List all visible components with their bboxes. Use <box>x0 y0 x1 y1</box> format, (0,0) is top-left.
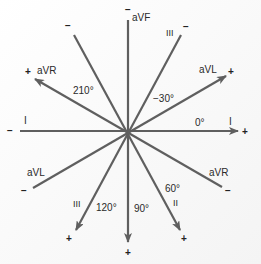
plus-sign-iii: + <box>66 234 72 244</box>
plus-sign-avl: + <box>228 67 234 77</box>
axes-svg <box>0 0 261 264</box>
label-iii-bottom: III <box>73 200 81 209</box>
label-angle-minus30: −30° <box>153 94 174 104</box>
label-angle-210: 210° <box>73 86 94 96</box>
minus-sign-i: − <box>7 126 13 136</box>
minus-sign-ii: − <box>65 21 71 31</box>
plus-sign-avf: + <box>125 248 131 258</box>
hexaxial-diagram: aVF III aVL aVR 210° −30° I I 0° aVL aVR… <box>0 0 261 264</box>
label-angle-90: 90° <box>134 204 149 214</box>
minus-sign-avl: − <box>21 186 27 196</box>
plus-sign-ii: + <box>181 234 187 244</box>
plus-sign-avr: + <box>25 67 31 77</box>
label-iii-top: III <box>166 29 174 38</box>
label-avf: aVF <box>132 13 150 23</box>
label-angle-120: 120° <box>96 203 117 213</box>
label-angle-0: 0° <box>195 118 205 128</box>
label-i-right: I <box>229 117 232 127</box>
label-avl-left: aVL <box>27 168 45 178</box>
label-i-left: I <box>24 116 27 126</box>
plus-sign-i: + <box>242 127 248 137</box>
label-avl-right: aVL <box>199 65 217 75</box>
minus-sign-avr: − <box>225 186 231 196</box>
label-angle-60: 60° <box>165 184 180 194</box>
label-avr-right: aVR <box>209 168 228 178</box>
label-avr-left: aVR <box>37 66 56 76</box>
minus-sign-iii: − <box>183 22 189 32</box>
label-ii-bottom: II <box>173 199 178 208</box>
minus-sign-avf: − <box>125 5 131 15</box>
